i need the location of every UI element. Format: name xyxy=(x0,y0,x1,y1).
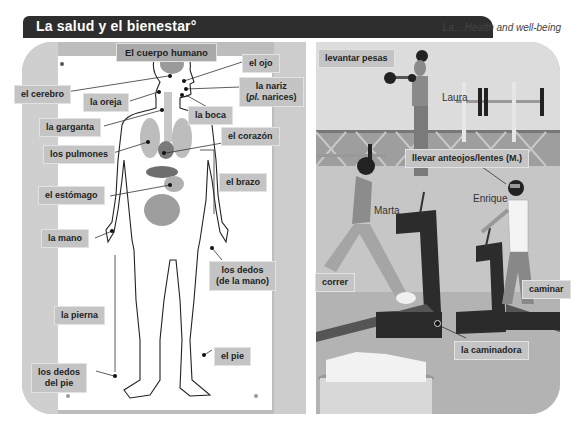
throat-marker xyxy=(160,108,164,112)
plural-abbrev: pl. xyxy=(249,92,260,102)
foot-marker xyxy=(202,353,206,357)
person-name-laura: Laura xyxy=(442,92,468,103)
pin-icon xyxy=(60,62,64,66)
person-name-enrique: Enrique xyxy=(473,193,507,204)
body-heading: El cuerpo humano xyxy=(117,44,216,61)
heart-marker xyxy=(162,151,166,155)
plural-form: narices) xyxy=(260,92,297,102)
label-nose: la nariz (pl. narices) xyxy=(240,78,303,106)
label-fingers-line1: los dedos xyxy=(216,265,269,276)
lungs-marker xyxy=(146,140,150,144)
label-run: correr xyxy=(316,274,354,291)
nose-marker xyxy=(184,87,188,91)
label-fingers-line2: (de la mano) xyxy=(216,276,269,287)
label-lift-weights: levantar pesas xyxy=(319,50,394,67)
label-stomach: el estómago xyxy=(39,187,104,204)
heart xyxy=(158,141,174,159)
label-mouth: la boca xyxy=(189,107,232,124)
label-eye: el ojo xyxy=(243,55,279,72)
label-lungs: los pulmones xyxy=(44,146,114,163)
label-brain: el cerebro xyxy=(15,86,70,103)
ear-marker xyxy=(157,90,161,94)
lung-right xyxy=(172,118,192,158)
label-arm: el brazo xyxy=(220,174,266,191)
label-leg: la pierna xyxy=(55,307,104,324)
throat xyxy=(164,92,172,142)
eye-marker xyxy=(182,79,186,83)
intestines xyxy=(144,194,180,226)
pin-icon xyxy=(66,394,70,398)
lung-left xyxy=(140,118,160,158)
label-hand: la mano xyxy=(42,230,88,247)
label-toes: los dedos del pie xyxy=(32,364,86,392)
label-throat: la garganta xyxy=(40,119,100,136)
stomach-marker xyxy=(168,183,172,187)
treadmill-marker xyxy=(434,320,441,327)
label-wear-glasses: llevar anteojos/lentes (M.) xyxy=(406,150,528,167)
toes-marker xyxy=(113,374,117,378)
mouth-marker xyxy=(180,93,184,97)
stomach xyxy=(164,176,184,192)
label-toes-line2: del pie xyxy=(38,378,80,389)
label-toes-line1: los dedos xyxy=(38,367,80,378)
hand-marker xyxy=(110,229,114,233)
label-treadmill: la caminadora xyxy=(455,342,528,359)
label-heart: el corazón xyxy=(222,128,279,145)
laundry-basket xyxy=(318,352,434,414)
label-walk: caminar xyxy=(523,281,570,298)
label-foot: el pie xyxy=(215,348,250,365)
pin-icon xyxy=(254,394,258,398)
label-fingers: los dedos (de la mano) xyxy=(210,262,275,290)
person-name-marta: Marta xyxy=(374,205,400,216)
label-ear: la oreja xyxy=(84,94,128,111)
label-nose-line1: la nariz xyxy=(246,81,297,92)
label-nose-line2: (pl. narices) xyxy=(246,92,297,103)
brain-marker xyxy=(168,74,172,78)
fingers-marker xyxy=(210,246,214,250)
